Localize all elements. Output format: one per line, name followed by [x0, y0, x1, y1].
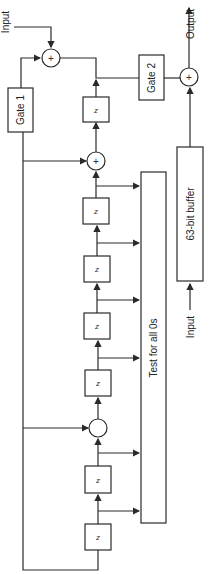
svg-text:63-bit buffer: 63-bit buffer	[185, 187, 196, 241]
delay-z5: z	[85, 370, 111, 396]
svg-text:z: z	[95, 476, 100, 485]
svg-text:z: z	[95, 533, 100, 542]
input-bottom-label: Input	[185, 316, 196, 338]
svg-text:z: z	[95, 379, 100, 388]
input-top-line	[14, 27, 51, 47]
svg-text:z: z	[93, 207, 98, 216]
adder-middle: +	[87, 152, 105, 170]
output-label: Output	[185, 9, 196, 39]
lower-node	[89, 419, 107, 437]
gate-1-block: Gate 1	[8, 88, 33, 132]
svg-text:Gate 1: Gate 1	[15, 95, 26, 125]
delay-z4: z	[84, 313, 110, 339]
svg-text:z: z	[94, 322, 99, 331]
svg-text:z: z	[93, 106, 98, 115]
svg-text:+: +	[186, 72, 192, 83]
delay-z6: z	[85, 466, 111, 493]
delay-z7: z	[85, 524, 111, 550]
svg-text:Gate 2: Gate 2	[146, 63, 157, 93]
svg-text:z: z	[94, 265, 99, 274]
block-diagram: Input + Gate 1 Gate 2 + Output 63-bit bu…	[0, 0, 209, 574]
gate1-to-adder	[21, 58, 40, 88]
input-top-label: Input	[0, 11, 11, 33]
svg-text:+: +	[93, 156, 99, 167]
svg-text:+: +	[48, 53, 54, 64]
test-zero-block: Test for all 0s	[141, 172, 166, 523]
adder-to-gate2-line	[60, 58, 139, 78]
delay-z3: z	[84, 256, 110, 282]
gate-2-block: Gate 2	[139, 55, 164, 100]
adder-top: +	[42, 49, 60, 67]
delay-z1: z	[83, 97, 109, 122]
delay-z2: z	[83, 198, 109, 224]
buffer-block: 63-bit buffer	[177, 147, 203, 281]
adder-output: +	[180, 68, 198, 86]
svg-text:Test for all 0s: Test for all 0s	[148, 319, 159, 378]
